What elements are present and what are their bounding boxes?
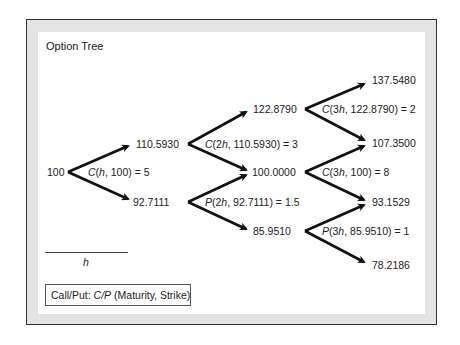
option-label-t2-upup: C(3h, 122.8790) = 2 — [322, 103, 416, 115]
time-step-label: h — [83, 256, 89, 268]
option-label-t2-downdown: P(3h, 85.9510) = 1 — [322, 225, 409, 237]
node-t3-uud: 107.3500 — [372, 137, 416, 149]
option-label-t1-down: P(2h, 92.7111) = 1.5 — [205, 196, 300, 208]
node-t0: 100 — [47, 166, 65, 178]
node-t2-downdown: 85.9510 — [253, 225, 291, 237]
legend-box: Call/Put: C/P (Maturity, Strike) — [45, 284, 191, 306]
node-t3-udd: 93.1529 — [372, 196, 410, 208]
option-label-t0: C(h, 100) = 5 — [88, 166, 150, 178]
node-t1-down: 92.7111 — [133, 196, 169, 208]
node-t2-updown: 100.0000 — [252, 166, 296, 178]
option-label-t2-updown: C(3h, 100) = 8 — [322, 166, 389, 178]
node-t3-ddd: 78.2186 — [372, 259, 410, 271]
node-t2-upup: 122.8790 — [253, 103, 297, 115]
time-step-scale-line — [45, 252, 128, 253]
node-t3-uuu: 137.5480 — [372, 74, 416, 86]
option-label-t1-up: C(2h, 110.5930) = 3 — [205, 138, 298, 150]
node-t1-up: 110.5930 — [136, 138, 179, 150]
